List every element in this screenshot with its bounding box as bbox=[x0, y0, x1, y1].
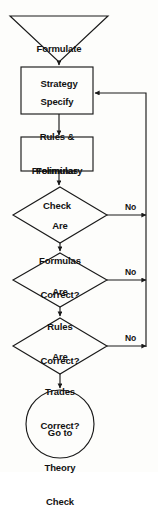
connector-feedback-return-to-specify bbox=[95, 93, 146, 347]
node-shape-go-to-theory-check bbox=[26, 390, 94, 458]
node-shape-preliminary-check bbox=[21, 137, 93, 171]
edge-label-no-formulas: No bbox=[125, 202, 136, 212]
node-shape-trades-correct bbox=[13, 318, 107, 374]
node-shape-formulas-correct bbox=[13, 187, 107, 243]
node-shape-rules-correct bbox=[13, 253, 107, 307]
node-shape-specify-rules bbox=[21, 67, 93, 114]
node-shape-formulate-strategy bbox=[10, 16, 108, 62]
node-label-line: Check bbox=[29, 496, 91, 508]
edge-label-no-rules: No bbox=[125, 267, 136, 277]
edge-label-no-trades: No bbox=[125, 333, 136, 343]
